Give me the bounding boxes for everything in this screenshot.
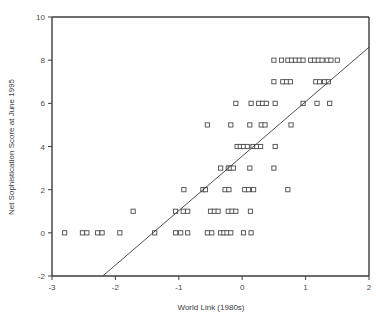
data-point	[279, 58, 283, 62]
data-point	[229, 123, 233, 127]
ticks-group	[48, 17, 369, 280]
data-point	[273, 101, 277, 105]
data-point	[182, 188, 186, 192]
data-point	[96, 231, 100, 235]
x-tick-label: 1	[303, 283, 308, 292]
data-point	[63, 231, 67, 235]
data-point	[234, 101, 238, 105]
data-point	[186, 231, 190, 235]
data-point	[258, 144, 262, 148]
data-point	[234, 209, 238, 213]
data-point	[219, 166, 223, 170]
data-point	[249, 231, 253, 235]
data-point	[286, 188, 290, 192]
axes-group	[52, 17, 369, 276]
data-point	[263, 123, 267, 127]
data-point	[181, 209, 185, 213]
fit-line-segment	[103, 47, 369, 276]
x-tick-label: -2	[112, 283, 120, 292]
data-points-group	[63, 58, 340, 235]
data-point	[252, 188, 256, 192]
data-point	[329, 58, 333, 62]
data-point	[205, 123, 209, 127]
data-point	[118, 231, 122, 235]
y-tick-label: 0	[41, 229, 46, 238]
data-point	[272, 80, 276, 84]
x-tick-label: 0	[240, 283, 245, 292]
x-tick-label: -1	[175, 283, 183, 292]
data-point	[231, 166, 235, 170]
data-point	[227, 188, 231, 192]
data-point	[335, 58, 339, 62]
data-point	[288, 80, 292, 84]
y-tick-label: 4	[41, 143, 46, 152]
data-point	[249, 101, 253, 105]
x-tick-label: -3	[48, 283, 56, 292]
data-point	[131, 209, 135, 213]
tick-labels-group: -3-2-1012-20246810	[36, 13, 372, 292]
y-tick-label: 2	[41, 186, 46, 195]
data-point	[301, 58, 305, 62]
x-tick-label: 2	[367, 283, 372, 292]
data-point	[272, 166, 276, 170]
data-point	[273, 144, 277, 148]
regression-line	[103, 47, 369, 276]
data-point	[248, 166, 252, 170]
data-point	[205, 231, 209, 235]
plot-canvas: -3-2-1012-20246810 World Link (1980s) Ne…	[0, 0, 389, 331]
data-point	[289, 123, 293, 127]
data-point	[210, 231, 214, 235]
data-point	[100, 231, 104, 235]
data-point	[248, 123, 252, 127]
data-point	[245, 144, 249, 148]
data-point	[264, 101, 268, 105]
data-point	[272, 58, 276, 62]
y-tick-label: 6	[41, 99, 46, 108]
data-point	[320, 58, 324, 62]
data-point	[241, 231, 245, 235]
x-axis-title: World Link (1980s)	[178, 303, 245, 312]
y-axis-title: Net Sophistication Score at June 1995	[7, 78, 16, 215]
data-point	[328, 101, 332, 105]
data-point	[317, 80, 321, 84]
data-point	[229, 231, 233, 235]
data-point	[174, 231, 178, 235]
data-point	[80, 231, 84, 235]
y-tick-label: -2	[38, 272, 46, 281]
data-point	[315, 101, 319, 105]
data-point	[216, 209, 220, 213]
y-tick-label: 10	[36, 13, 45, 22]
data-point	[179, 231, 183, 235]
data-point	[246, 188, 250, 192]
data-point	[248, 209, 252, 213]
y-tick-label: 8	[41, 56, 46, 65]
data-point	[85, 231, 89, 235]
scatter-chart: -3-2-1012-20246810 World Link (1980s) Ne…	[0, 0, 389, 331]
data-point	[186, 209, 190, 213]
data-point	[174, 209, 178, 213]
